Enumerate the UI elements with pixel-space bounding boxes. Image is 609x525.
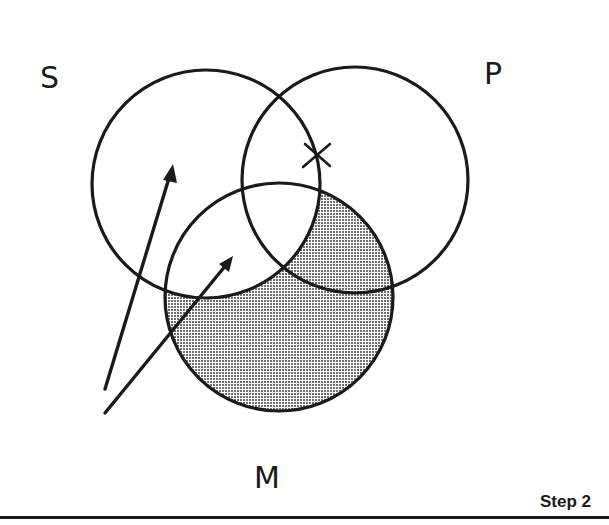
set-label-s: S: [40, 60, 59, 95]
venn-diagram: S P M Step 2: [0, 0, 609, 525]
set-label-p: P: [484, 56, 502, 91]
step-label: Step 2: [540, 492, 591, 511]
shaded-region-m-outside-s: [150, 170, 410, 420]
x-mark-icon: [303, 144, 330, 167]
set-label-m: M: [254, 460, 280, 495]
bottom-rule: [0, 516, 609, 519]
